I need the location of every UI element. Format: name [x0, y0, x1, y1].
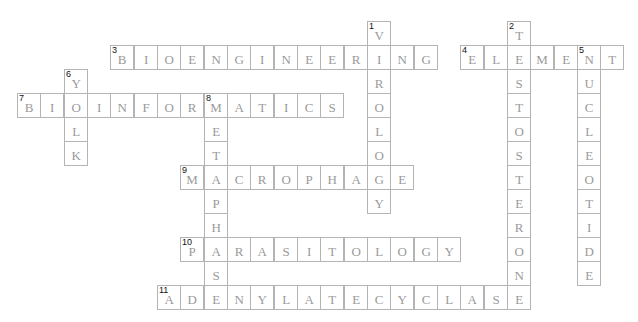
crossword-cell[interactable]: O [390, 237, 414, 262]
crossword-cell[interactable]: E [180, 45, 204, 70]
crossword-cell[interactable]: I [274, 93, 298, 118]
crossword-cell[interactable]: E [204, 117, 228, 142]
crossword-cell[interactable]: E [554, 45, 578, 70]
crossword-cell[interactable]: C [297, 93, 321, 118]
crossword-cell[interactable]: E [297, 45, 321, 70]
crossword-cell[interactable]: L [437, 285, 461, 310]
crossword-cell[interactable]: D [180, 285, 204, 310]
crossword-cell[interactable]: L [484, 45, 508, 70]
crossword-cell[interactable]: O [507, 117, 531, 142]
crossword-cell[interactable]: I [87, 93, 111, 118]
crossword-cell[interactable]: A [204, 165, 228, 190]
crossword-cell[interactable]: H [204, 213, 228, 238]
crossword-cell[interactable]: L [274, 285, 298, 310]
crossword-cell[interactable]: T [204, 141, 228, 166]
crossword-cell[interactable]: R [227, 237, 251, 262]
crossword-cell[interactable]: T [507, 93, 531, 118]
crossword-cell[interactable]: 8M [204, 93, 228, 118]
crossword-cell[interactable]: U [577, 69, 601, 94]
crossword-cell[interactable]: 10P [180, 237, 204, 262]
crossword-cell[interactable]: G [414, 45, 438, 70]
crossword-cell[interactable]: G [227, 45, 251, 70]
crossword-cell[interactable]: K [64, 141, 88, 166]
crossword-cell[interactable]: N [204, 45, 228, 70]
crossword-cell[interactable]: O [274, 165, 298, 190]
crossword-cell[interactable]: L [367, 117, 391, 142]
crossword-cell[interactable]: I [250, 45, 274, 70]
crossword-cell[interactable]: S [204, 261, 228, 286]
crossword-cell[interactable]: P [297, 165, 321, 190]
crossword-cell[interactable]: T [577, 189, 601, 214]
crossword-cell[interactable]: E [577, 141, 601, 166]
crossword-cell[interactable]: T [507, 165, 531, 190]
crossword-cell[interactable]: N [110, 93, 134, 118]
crossword-cell[interactable]: E [390, 165, 414, 190]
crossword-cell[interactable]: N [274, 45, 298, 70]
crossword-cell[interactable]: 2T [507, 21, 531, 46]
crossword-cell[interactable]: S [507, 141, 531, 166]
crossword-cell[interactable]: C [414, 285, 438, 310]
crossword-cell[interactable]: O [367, 141, 391, 166]
crossword-cell[interactable]: 3B [110, 45, 134, 70]
crossword-cell[interactable]: A [297, 285, 321, 310]
crossword-cell[interactable]: A [344, 165, 368, 190]
crossword-cell[interactable]: 4E [460, 45, 484, 70]
crossword-cell[interactable]: 1V [367, 21, 391, 46]
crossword-cell[interactable]: N [227, 285, 251, 310]
crossword-cell[interactable]: R [180, 93, 204, 118]
crossword-cell[interactable]: 6Y [64, 69, 88, 94]
crossword-cell[interactable]: T [320, 237, 344, 262]
crossword-cell[interactable]: A [227, 93, 251, 118]
crossword-cell[interactable]: N [390, 45, 414, 70]
crossword-cell[interactable]: O [577, 165, 601, 190]
crossword-cell[interactable]: P [204, 189, 228, 214]
crossword-cell[interactable]: E [577, 261, 601, 286]
crossword-cell[interactable]: F [134, 93, 158, 118]
crossword-cell[interactable]: E [507, 285, 531, 310]
crossword-cell[interactable]: I [367, 45, 391, 70]
crossword-cell[interactable]: S [507, 69, 531, 94]
crossword-cell[interactable]: M [530, 45, 554, 70]
crossword-cell[interactable]: O [157, 45, 181, 70]
crossword-cell[interactable]: I [577, 213, 601, 238]
crossword-cell[interactable]: L [577, 117, 601, 142]
crossword-cell[interactable]: Y [390, 285, 414, 310]
crossword-cell[interactable]: S [274, 237, 298, 262]
crossword-cell[interactable]: Y [250, 285, 274, 310]
crossword-cell[interactable]: E [507, 189, 531, 214]
crossword-cell[interactable]: 9M [180, 165, 204, 190]
crossword-cell[interactable]: D [577, 237, 601, 262]
crossword-cell[interactable]: S [484, 285, 508, 310]
crossword-cell[interactable]: O [367, 93, 391, 118]
crossword-cell[interactable]: A [460, 285, 484, 310]
crossword-cell[interactable]: R [250, 165, 274, 190]
crossword-cell[interactable]: 5N [577, 45, 601, 70]
crossword-cell[interactable]: L [64, 117, 88, 142]
crossword-cell[interactable]: C [367, 285, 391, 310]
crossword-cell[interactable]: I [134, 45, 158, 70]
crossword-cell[interactable]: T [600, 45, 624, 70]
crossword-cell[interactable]: N [507, 261, 531, 286]
crossword-cell[interactable]: E [204, 285, 228, 310]
crossword-cell[interactable]: C [577, 93, 601, 118]
crossword-cell[interactable]: 11A [157, 285, 181, 310]
crossword-cell[interactable]: G [414, 237, 438, 262]
crossword-cell[interactable]: C [227, 165, 251, 190]
crossword-cell[interactable]: O [64, 93, 88, 118]
crossword-cell[interactable]: G [367, 165, 391, 190]
crossword-cell[interactable]: A [204, 237, 228, 262]
crossword-cell[interactable]: T [320, 285, 344, 310]
crossword-cell[interactable]: I [297, 237, 321, 262]
crossword-cell[interactable]: E [507, 45, 531, 70]
crossword-cell[interactable]: 7B [17, 93, 41, 118]
crossword-cell[interactable]: A [250, 237, 274, 262]
crossword-cell[interactable]: R [344, 45, 368, 70]
crossword-cell[interactable]: L [367, 237, 391, 262]
crossword-cell[interactable]: Y [367, 189, 391, 214]
crossword-cell[interactable]: O [507, 237, 531, 262]
crossword-cell[interactable]: R [507, 213, 531, 238]
crossword-cell[interactable]: I [40, 93, 64, 118]
crossword-cell[interactable]: E [320, 45, 344, 70]
crossword-cell[interactable]: H [320, 165, 344, 190]
crossword-cell[interactable]: E [344, 285, 368, 310]
